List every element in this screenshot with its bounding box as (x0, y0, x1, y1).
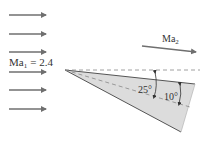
downstream-arrow (142, 46, 196, 52)
downstream-mach-label: Ma2 (162, 33, 179, 46)
angle-25-label: 25° (138, 84, 152, 95)
angle-10-label: 10° (164, 91, 178, 102)
upstream-mach-label: Ma1= 2.4 (9, 56, 53, 70)
diagram: Ma1= 2.4 Ma2 25° 10° (0, 0, 209, 142)
wedge-diagram: Ma1= 2.4 Ma2 25° 10° (0, 0, 209, 142)
